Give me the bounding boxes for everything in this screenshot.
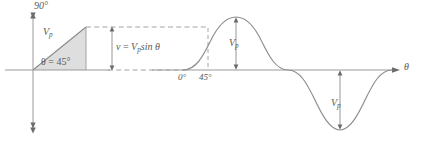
figure-container: 90° Vp θ = 45° v = Vpsin θ 0° 45° Vp Vp …: [0, 0, 421, 143]
equation-equals: =: [120, 41, 131, 52]
peak-amplitude-label: Vp: [229, 38, 239, 50]
phasor-magnitude-label: Vp: [43, 27, 53, 39]
vertical-axis-arrow-down: [30, 128, 36, 134]
vertical-axis-label: 90°: [34, 1, 48, 11]
theta-axis-arrow-icon: [392, 67, 400, 73]
phasor-angle-label: θ = 45°: [41, 57, 70, 67]
trough-amplitude-arrow-down-icon: [338, 125, 343, 130]
peak-amplitude-arrow-up-icon: [234, 17, 239, 22]
phasor-magnitude-subscript: p: [49, 31, 53, 39]
trough-amplitude-subscript: p: [337, 102, 341, 110]
peak-amplitude-subscript: p: [235, 42, 239, 50]
theta-axis-label: θ: [404, 62, 409, 72]
peak-amplitude-arrow-down-icon: [234, 65, 239, 70]
trough-amplitude-arrow-up-icon: [338, 70, 343, 75]
trough-amplitude-label: Vp: [331, 98, 341, 110]
sine-wave-curve: [183, 17, 392, 130]
sine-equation-label: v = Vpsin θ: [116, 42, 160, 54]
axis-tick-label-zero: 0°: [178, 73, 186, 82]
axis-tick-label-fortyfive: 45°: [199, 73, 212, 82]
equation-sine-term: sin θ: [141, 41, 160, 52]
vertical-axis-arrow-up: [30, 13, 36, 19]
